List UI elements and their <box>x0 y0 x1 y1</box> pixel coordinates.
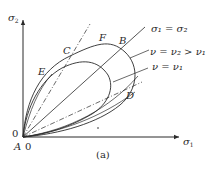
figure-caption: (a) <box>96 149 110 160</box>
legend-curve-inner: ν = ν₁ <box>152 61 183 72</box>
point-d-label: D <box>125 90 134 101</box>
point-f-label: F <box>98 32 107 43</box>
origin-y-tick: 0 <box>12 128 18 139</box>
dot-marker <box>97 127 99 129</box>
legend-equal-line: σ₁ = σ₂ <box>151 23 187 34</box>
point-b-label: B <box>118 35 126 46</box>
y-axis-label: σ2 <box>8 12 19 24</box>
point-c-label: C <box>63 45 71 56</box>
point-e-label: E <box>37 66 46 77</box>
origin-x-tick: 0 <box>25 141 31 152</box>
yield-surface-diagram: σ2 σ1 0 A 0 C E F B D σ₁ = σ₂ ν = ν₂ > ν… <box>0 0 210 171</box>
leader-inner <box>113 68 148 82</box>
leader-outer <box>130 50 149 58</box>
x-axis-label: σ1 <box>183 136 194 148</box>
fan-curve-2 <box>23 92 135 137</box>
origin-point-label: A <box>13 141 21 152</box>
fan-curve-1 <box>23 74 52 137</box>
legend-curve-outer: ν = ν₂ > ν₁ <box>150 46 206 57</box>
